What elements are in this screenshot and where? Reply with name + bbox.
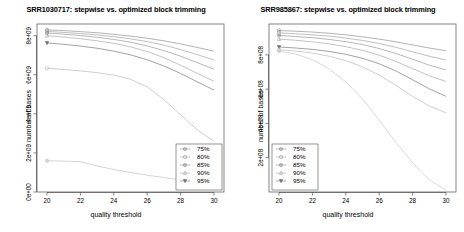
chart-panel-right: SRR985867: stepwise vs. optimized block … — [232, 0, 464, 232]
plot-area-right: 2022242628302e+084e+086e+088e+0875%80%85… — [232, 0, 464, 232]
chart-panel-left: SRR1030717: stepwise vs. optimized block… — [0, 0, 232, 232]
x-axis-label-left: quality threshold — [0, 211, 232, 218]
x-axis-label-right: quality threshold — [232, 211, 464, 218]
x-tick-label: 26 — [376, 197, 384, 204]
series-line-optimized-upper — [279, 50, 446, 113]
legend-label-95pct: 95% — [197, 177, 210, 184]
legend-label-80pct: 80% — [293, 153, 306, 160]
legend-label-85pct: 85% — [197, 161, 210, 168]
series-line-85% — [47, 33, 214, 69]
x-tick-label: 20 — [44, 197, 52, 204]
series-line-95% — [47, 43, 214, 90]
legend-label-90pct: 90% — [293, 169, 306, 176]
legend-label-90pct: 90% — [197, 169, 210, 176]
y-tick-label: 2e+08 — [257, 148, 264, 166]
marker-triangle-down-icon — [45, 42, 48, 45]
legend-label-75pct: 75% — [197, 145, 210, 152]
x-tick-label: 24 — [110, 197, 118, 204]
legend-label-80pct: 80% — [197, 153, 210, 160]
x-tick-label: 22 — [77, 197, 85, 204]
legend-label-95pct: 95% — [293, 177, 306, 184]
marker-triangle-up-icon — [277, 37, 280, 40]
x-tick-label: 22 — [309, 197, 317, 204]
y-tick-label: 0e+00 — [25, 183, 32, 201]
plot-area-left: 2022242628300e+002e+094e+096e+098e+0975%… — [0, 0, 232, 232]
series-line-90% — [279, 39, 446, 81]
y-tick-label: 6e+09 — [25, 65, 32, 83]
y-axis-label-left: number of bases — [25, 90, 32, 142]
legend: 75%80%85%90%95% — [272, 144, 318, 190]
y-axis-label-right: number of bases — [257, 90, 264, 142]
series-line-optimized-upper — [47, 68, 214, 141]
figure-container: SRR1030717: stepwise vs. optimized block… — [0, 0, 464, 232]
x-tick-label: 28 — [177, 197, 185, 204]
x-tick-label: 30 — [442, 197, 450, 204]
x-tick-label: 28 — [409, 197, 417, 204]
y-tick-label: 8e+09 — [25, 26, 32, 44]
series-line-95% — [279, 47, 446, 96]
legend: 75%80%85%90%95% — [176, 144, 222, 190]
legend-label-75pct: 75% — [293, 145, 306, 152]
y-tick-label: 2e+09 — [25, 144, 32, 162]
series-line-90% — [47, 36, 214, 82]
legend-label-85pct: 85% — [293, 161, 306, 168]
y-tick-label: 8e+08 — [257, 46, 264, 64]
x-tick-label: 20 — [276, 197, 284, 204]
x-tick-label: 24 — [342, 197, 350, 204]
x-tick-label: 26 — [144, 197, 152, 204]
x-tick-label: 30 — [210, 197, 218, 204]
